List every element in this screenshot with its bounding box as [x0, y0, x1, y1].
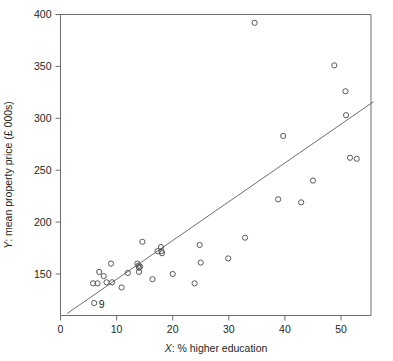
data-point-marker: [343, 113, 348, 118]
data-point-annotation: 9: [99, 298, 105, 310]
data-point-marker: [104, 280, 109, 285]
data-point-marker: [276, 197, 281, 202]
data-point-marker: [354, 156, 359, 161]
x-tick-label: 30: [223, 323, 235, 335]
y-axis-label: Y: mean property price (£ 000s): [2, 101, 14, 249]
plot-frame: [61, 15, 372, 316]
data-point-marker: [347, 155, 352, 160]
data-point-marker: [242, 235, 247, 240]
data-point-marker: [332, 63, 337, 68]
y-tick-label: 400: [34, 8, 52, 20]
data-point-marker: [226, 256, 231, 261]
data-point-marker: [170, 271, 175, 276]
data-points: [90, 20, 359, 305]
x-axis-ticks: 01020304050: [58, 316, 347, 335]
chart-canvas: 01020304050 150200250300350400 9 X: % hi…: [0, 0, 393, 361]
regression-line: [67, 102, 373, 314]
data-point-marker: [97, 269, 102, 274]
x-tick-label: 50: [335, 323, 347, 335]
data-point-marker: [198, 260, 203, 265]
point-annotations: 9: [99, 298, 105, 310]
regression-fit-line: [67, 102, 373, 314]
y-tick-label: 350: [34, 60, 52, 72]
y-tick-label: 150: [34, 268, 52, 280]
y-tick-label: 250: [34, 164, 52, 176]
y-tick-label: 300: [34, 112, 52, 124]
data-point-marker: [252, 20, 257, 25]
data-point-marker: [108, 261, 113, 266]
plot-border: [61, 15, 372, 316]
y-axis-ticks: 150200250300350400: [34, 8, 61, 280]
data-point-marker: [92, 300, 97, 305]
data-point-marker: [299, 200, 304, 205]
y-tick-label: 200: [34, 216, 52, 228]
x-tick-label: 20: [167, 323, 179, 335]
data-point-marker: [101, 273, 106, 278]
data-point-marker: [281, 133, 286, 138]
data-point-marker: [119, 285, 124, 290]
x-tick-label: 0: [58, 323, 64, 335]
data-point-marker: [140, 239, 145, 244]
data-point-marker: [150, 277, 155, 282]
data-point-marker: [310, 178, 315, 183]
x-tick-label: 10: [111, 323, 123, 335]
scatter-plot-figure: 01020304050 150200250300350400 9 X: % hi…: [0, 0, 393, 361]
x-tick-label: 40: [279, 323, 291, 335]
data-point-marker: [197, 242, 202, 247]
x-axis-label: X: % higher education: [164, 342, 268, 354]
data-point-marker: [343, 89, 348, 94]
data-point-marker: [192, 281, 197, 286]
